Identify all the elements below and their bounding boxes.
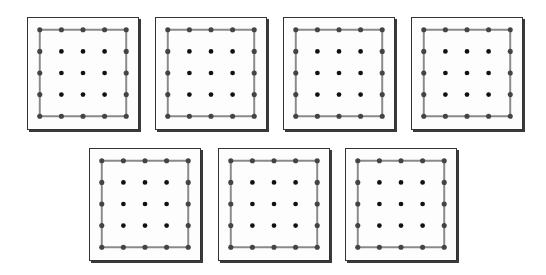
peg-icon	[377, 202, 382, 207]
peg-icon	[230, 27, 235, 32]
peg-icon	[508, 70, 513, 75]
peg-icon	[187, 114, 192, 119]
peg-icon	[486, 49, 491, 54]
peg-icon	[124, 27, 129, 32]
peg-icon	[99, 180, 104, 185]
peg-icon	[102, 71, 107, 76]
peg-icon	[271, 245, 276, 250]
peg-icon	[443, 27, 448, 32]
peg-icon	[250, 202, 255, 207]
peg-icon	[442, 201, 447, 206]
peg-icon	[121, 202, 126, 207]
peg-icon	[99, 201, 104, 206]
peg-icon	[465, 49, 470, 54]
peg-icon	[421, 70, 426, 75]
peg-icon	[443, 71, 448, 76]
peg-icon	[228, 201, 233, 206]
peg-icon	[230, 114, 235, 119]
peg-icon	[293, 223, 298, 228]
peg-icon	[208, 27, 213, 32]
peg-icon	[293, 70, 298, 75]
peg-icon	[124, 114, 129, 119]
geoboard-graphic	[219, 149, 329, 260]
peg-icon	[272, 180, 277, 185]
peg-icon	[272, 223, 277, 228]
peg-icon	[165, 114, 170, 119]
peg-icon	[164, 245, 169, 250]
peg-icon	[337, 49, 342, 54]
peg-icon	[508, 114, 513, 119]
peg-icon	[209, 92, 214, 97]
peg-icon	[293, 49, 298, 54]
peg-icon	[399, 180, 404, 185]
peg-icon	[124, 70, 129, 75]
peg-icon	[315, 180, 320, 185]
peg-icon	[399, 223, 404, 228]
peg-icon	[421, 27, 426, 32]
peg-icon	[486, 71, 491, 76]
peg-icon	[399, 202, 404, 207]
peg-icon	[465, 71, 470, 76]
geoboard-4	[411, 17, 523, 130]
peg-icon	[508, 27, 513, 32]
peg-icon	[315, 201, 320, 206]
peg-icon	[337, 92, 342, 97]
peg-icon	[230, 92, 235, 97]
peg-icon	[186, 245, 191, 250]
peg-icon	[420, 158, 425, 163]
peg-icon	[164, 180, 169, 185]
peg-icon	[293, 27, 298, 32]
peg-icon	[186, 223, 191, 228]
peg-icon	[99, 245, 104, 250]
peg-icon	[59, 92, 64, 97]
geoboard-graphic	[28, 18, 138, 129]
peg-icon	[164, 158, 169, 163]
peg-icon	[81, 92, 86, 97]
peg-icon	[121, 158, 126, 163]
peg-icon	[443, 49, 448, 54]
peg-icon	[508, 49, 513, 54]
peg-icon	[252, 49, 257, 54]
peg-icon	[186, 158, 191, 163]
peg-icon	[442, 245, 447, 250]
peg-icon	[187, 49, 192, 54]
peg-icon	[355, 223, 360, 228]
peg-icon	[377, 245, 382, 250]
peg-icon	[121, 245, 126, 250]
peg-icon	[398, 158, 403, 163]
geoboard-graphic	[412, 18, 522, 129]
peg-icon	[59, 49, 64, 54]
peg-icon	[315, 158, 320, 163]
geoboard-7	[345, 148, 457, 261]
peg-icon	[377, 158, 382, 163]
geoboard-5	[89, 148, 201, 261]
peg-icon	[271, 158, 276, 163]
peg-icon	[102, 92, 107, 97]
peg-icon	[315, 223, 320, 228]
peg-icon	[142, 245, 147, 250]
peg-icon	[165, 49, 170, 54]
peg-icon	[293, 158, 298, 163]
geoboard-6	[218, 148, 330, 261]
peg-icon	[508, 92, 513, 97]
geoboard-1	[27, 17, 139, 130]
peg-icon	[37, 92, 42, 97]
peg-icon	[293, 92, 298, 97]
peg-icon	[165, 92, 170, 97]
peg-icon	[165, 27, 170, 32]
peg-icon	[355, 180, 360, 185]
peg-icon	[142, 158, 147, 163]
peg-icon	[228, 180, 233, 185]
peg-icon	[398, 245, 403, 250]
peg-icon	[486, 92, 491, 97]
peg-icon	[272, 202, 277, 207]
peg-icon	[315, 114, 320, 119]
geoboard-3	[283, 17, 395, 130]
geoboard-graphic	[90, 149, 200, 260]
peg-icon	[358, 92, 363, 97]
peg-icon	[230, 71, 235, 76]
peg-icon	[293, 180, 298, 185]
peg-icon	[293, 245, 298, 250]
peg-icon	[124, 92, 129, 97]
peg-icon	[228, 245, 233, 250]
